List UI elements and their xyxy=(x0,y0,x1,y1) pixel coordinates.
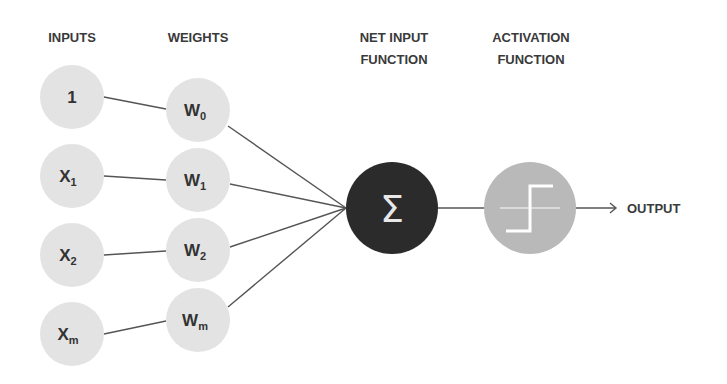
weight-node-1: W1 xyxy=(166,148,230,212)
weight-node-3: Wm xyxy=(166,288,230,352)
header-inputs: INPUTS xyxy=(48,30,96,45)
sigma-icon: Σ xyxy=(380,187,404,231)
input-node-2: X2 xyxy=(40,223,104,287)
activation-node xyxy=(484,162,576,254)
edge-weight2-sum xyxy=(230,208,346,247)
input-node-0: 1 xyxy=(40,65,104,129)
input-node-1: X1 xyxy=(40,144,104,208)
output-label: OUTPUT xyxy=(627,201,681,216)
edge-input3-weight3 xyxy=(104,321,166,334)
weight-node-0: W0 xyxy=(166,78,230,142)
edge-weight3-sum xyxy=(228,208,346,307)
perceptron-diagram: INPUTS WEIGHTS NET INPUT FUNCTION ACTIVA… xyxy=(0,0,727,384)
edge-input2-weight2 xyxy=(104,251,166,255)
input-node-3: Xm xyxy=(40,302,104,366)
svg-text:1: 1 xyxy=(67,88,76,107)
weight-node-2: W2 xyxy=(166,218,230,282)
header-activation-line1: ACTIVATION xyxy=(492,30,570,45)
net-input-node: Σ xyxy=(346,162,438,254)
header-net-input-line1: NET INPUT xyxy=(360,30,429,45)
header-weights: WEIGHTS xyxy=(168,30,229,45)
edge-input1-weight1 xyxy=(104,176,166,180)
header-activation-line2: FUNCTION xyxy=(497,52,564,67)
header-net-input-line2: FUNCTION xyxy=(360,52,427,67)
edge-input0-weight0 xyxy=(104,97,166,109)
